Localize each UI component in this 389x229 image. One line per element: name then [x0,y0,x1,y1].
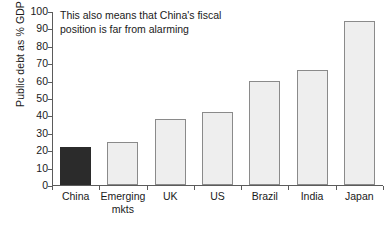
x-label-line: US [194,190,241,203]
y-tick-label: 50 [36,92,48,105]
y-tick-label: 40 [36,109,48,122]
y-tick-mark [48,116,52,117]
x-label-india: India [288,190,335,203]
x-tick-mark [383,186,384,190]
y-tick-mark [48,29,52,30]
chart-annotation: This also means that China's fiscal posi… [60,9,260,36]
bar-japan [344,21,375,185]
y-tick-label: 60 [36,75,48,88]
y-tick-mark [48,47,52,48]
annotation-line-1: This also means that China's fiscal [60,9,260,23]
y-tick-label: 100 [30,5,48,18]
y-tick-mark [48,82,52,83]
x-label-us: US [194,190,241,203]
bar-china [60,147,91,185]
x-label-uk: UK [147,190,194,203]
y-tick-mark [48,134,52,135]
y-tick-label: 10 [36,162,48,175]
x-label-emerging-mkts: Emergingmkts [99,190,146,215]
bar-emerging-mkts [107,142,138,186]
y-tick-label: 70 [36,57,48,70]
y-axis-title: Public debt as % GDP [14,0,26,134]
bar-us [202,112,233,185]
y-tick-label: 90 [36,22,48,35]
y-tick-mark [48,99,52,100]
y-axis-line [52,12,53,186]
y-tick-mark [48,64,52,65]
x-label-line: mkts [99,203,146,216]
x-label-line: UK [147,190,194,203]
bar-brazil [249,81,280,185]
x-label-japan: Japan [336,190,383,203]
x-label-line: Brazil [241,190,288,203]
annotation-line-2: position is far from alarming [60,23,260,37]
x-label-line: Emerging [99,190,146,203]
y-tick-mark [48,12,52,13]
y-tick-label: 20 [36,144,48,157]
y-tick-label: 80 [36,40,48,53]
x-label-line: India [288,190,335,203]
bar-chart: Public debt as % GDP 0102030405060708090… [0,0,389,229]
y-tick-label: 30 [36,127,48,140]
y-tick-mark [48,169,52,170]
x-axis-line [52,185,383,186]
x-label-brazil: Brazil [241,190,288,203]
y-tick-mark [48,151,52,152]
y-tick-label: 0 [42,179,48,192]
plot-area: 0102030405060708090100 [52,12,383,186]
bar-india [297,70,328,185]
x-label-line: China [52,190,99,203]
x-label-china: China [52,190,99,203]
x-label-line: Japan [336,190,383,203]
bar-uk [155,119,186,185]
